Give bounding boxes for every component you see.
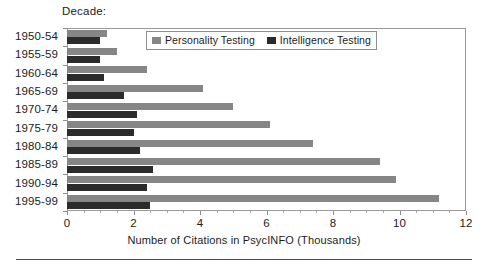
x-axis-minor-tick: [150, 211, 151, 213]
bar-personality: [67, 140, 313, 147]
category-axis-tick: [63, 193, 67, 194]
bar-intelligence: [67, 166, 153, 173]
bar-personality: [67, 176, 396, 183]
x-axis-tick-label: 10: [385, 217, 415, 229]
legend-label-intelligence: Intelligence Testing: [280, 34, 371, 46]
x-axis-minor-tick: [366, 211, 367, 213]
x-axis-minor-tick: [250, 211, 251, 213]
x-axis-minor-tick: [300, 211, 301, 213]
x-axis-minor-tick: [167, 211, 168, 213]
bar-personality: [67, 66, 147, 73]
footer-divider: [16, 259, 472, 260]
category-axis-tick: [63, 156, 67, 157]
x-axis-minor-tick: [233, 211, 234, 213]
x-axis-tick-label: 2: [119, 217, 149, 229]
x-axis-major-tick: [200, 211, 201, 215]
bar-intelligence: [67, 147, 140, 154]
bar-intelligence: [67, 56, 100, 63]
legend-item-intelligence: Intelligence Testing: [267, 34, 371, 46]
bar-personality: [67, 158, 380, 165]
x-axis-tick-label: 8: [318, 217, 348, 229]
x-axis-minor-tick: [449, 211, 450, 213]
bar-intelligence: [67, 129, 134, 136]
bar-group: [67, 193, 466, 211]
x-axis-minor-tick: [416, 211, 417, 213]
x-axis-minor-tick: [117, 211, 118, 213]
x-axis-minor-tick: [383, 211, 384, 213]
category-label: 1965-69: [15, 85, 58, 97]
x-axis-minor-tick: [350, 211, 351, 213]
legend-swatch-personality-icon: [152, 37, 161, 44]
x-axis-minor-tick: [100, 211, 101, 213]
bar-group: [67, 156, 466, 174]
category-axis-tick: [63, 101, 67, 102]
category-label: 1985-89: [15, 158, 58, 170]
category-label: 1960-64: [15, 67, 58, 79]
bar-intelligence: [67, 92, 124, 99]
bar-group: [67, 138, 466, 156]
x-axis-major-tick: [466, 211, 467, 215]
x-axis-minor-tick: [217, 211, 218, 213]
bar-intelligence: [67, 37, 100, 44]
category-label: 1950-54: [15, 30, 58, 42]
x-axis-minor-tick: [183, 211, 184, 213]
category-label: 1955-59: [15, 48, 58, 60]
x-axis-major-tick: [67, 211, 68, 215]
bar-intelligence: [67, 74, 104, 81]
bar-group: [67, 120, 466, 138]
x-axis-minor-tick: [283, 211, 284, 213]
x-axis-tick-label: 4: [185, 217, 215, 229]
bar-group: [67, 174, 466, 192]
x-axis-tick-label: 12: [451, 217, 481, 229]
category-axis-labels: 1950-541955-591960-641965-691970-741975-…: [0, 28, 64, 211]
bars-container: [67, 28, 466, 211]
bar-personality: [67, 85, 203, 92]
chart-legend: Personality Testing Intelligence Testing: [146, 31, 377, 50]
legend-swatch-intelligence-icon: [267, 37, 276, 44]
x-axis-major-tick: [400, 211, 401, 215]
bar-intelligence: [67, 202, 150, 209]
category-axis-tick: [63, 174, 67, 175]
bar-intelligence: [67, 184, 147, 191]
bar-personality: [67, 48, 117, 55]
bar-personality: [67, 121, 270, 128]
x-axis-major-tick: [333, 211, 334, 215]
x-axis-minor-tick: [433, 211, 434, 213]
category-label: 1990-94: [15, 177, 58, 189]
category-label: 1970-74: [15, 103, 58, 115]
category-axis-tick: [63, 28, 67, 29]
citations-bar-chart-figure: Decade: 1950-541955-591960-641965-691970…: [0, 0, 488, 270]
bar-personality: [67, 195, 439, 202]
category-axis-tick: [63, 138, 67, 139]
x-axis-minor-tick: [84, 211, 85, 213]
x-axis-title: Number of Citations in PsycINFO (Thousan…: [0, 234, 488, 246]
bar-group: [67, 65, 466, 83]
legend-item-personality: Personality Testing: [152, 34, 255, 46]
category-label: 1980-84: [15, 140, 58, 152]
category-axis-tick: [63, 83, 67, 84]
category-axis-tick: [63, 120, 67, 121]
category-axis-tick: [63, 46, 67, 47]
decade-axis-caption: Decade:: [62, 5, 106, 17]
category-axis-tick: [63, 65, 67, 66]
bar-group: [67, 101, 466, 119]
category-label: 1975-79: [15, 122, 58, 134]
bar-intelligence: [67, 111, 137, 118]
x-axis-major-tick: [267, 211, 268, 215]
bar-personality: [67, 30, 107, 37]
bar-personality: [67, 103, 233, 110]
x-axis-major-tick: [134, 211, 135, 215]
legend-label-personality: Personality Testing: [165, 34, 255, 46]
category-label: 1995-99: [15, 195, 58, 207]
x-axis-minor-tick: [316, 211, 317, 213]
x-axis-tick-label: 6: [252, 217, 282, 229]
bar-group: [67, 83, 466, 101]
x-axis-tick-label: 0: [52, 217, 82, 229]
